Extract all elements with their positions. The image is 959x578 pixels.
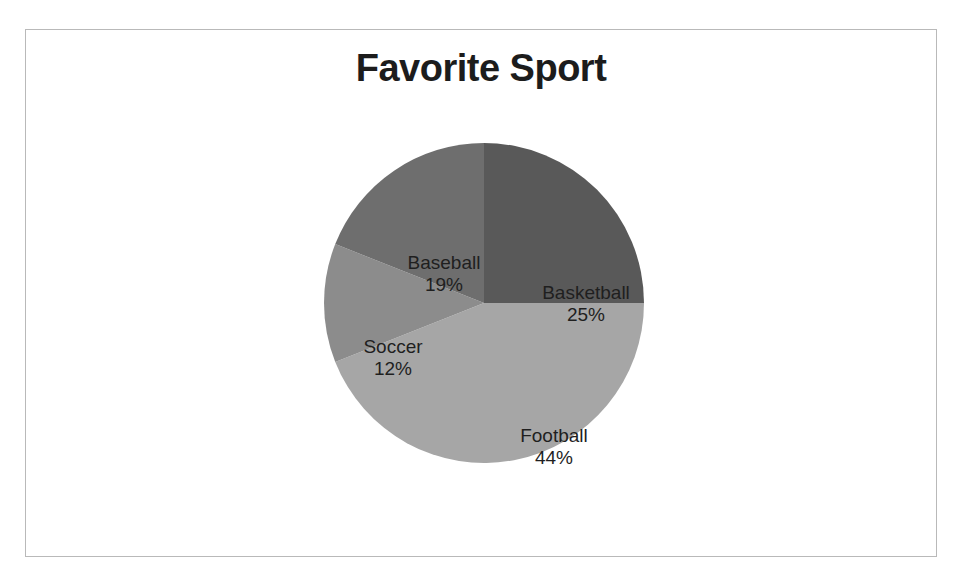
pie-svg (323, 142, 645, 464)
pie-chart (323, 142, 645, 464)
chart-title: Favorite Sport (26, 48, 936, 90)
pie-slice-basketball (484, 143, 644, 303)
chart-frame: Favorite Sport Basketball 25% Football 4… (25, 29, 937, 557)
